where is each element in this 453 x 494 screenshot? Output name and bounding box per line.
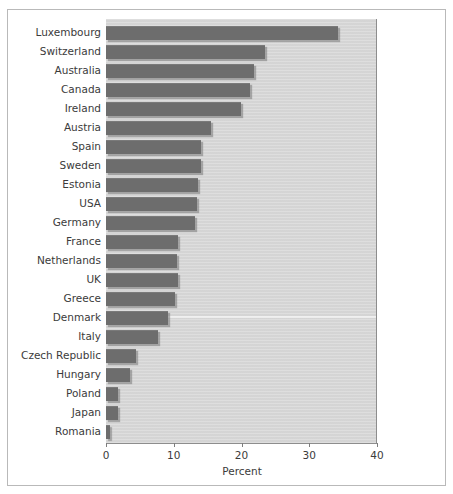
bar-category-label: Switzerland bbox=[40, 42, 101, 61]
bar bbox=[106, 292, 175, 306]
x-axis-tick-label: 20 bbox=[235, 449, 248, 461]
bar-category-label: France bbox=[66, 232, 101, 251]
bar-row: Australia bbox=[106, 61, 376, 80]
bar bbox=[106, 406, 118, 420]
bar-row: Spain bbox=[106, 137, 376, 156]
bar-category-label: Czech Republic bbox=[21, 346, 101, 365]
bar bbox=[106, 254, 177, 268]
bar bbox=[106, 140, 201, 154]
bar-category-label: Ireland bbox=[65, 99, 101, 118]
bar-category-label: Canada bbox=[61, 80, 101, 99]
bar bbox=[106, 102, 241, 116]
bar-row: UK bbox=[106, 270, 376, 289]
bar-row: USA bbox=[106, 194, 376, 213]
bar bbox=[106, 197, 197, 211]
chart-figure: LuxembourgSwitzerlandAustraliaCanadaIrel… bbox=[7, 9, 446, 486]
bar bbox=[106, 311, 168, 325]
bar-category-label: Sweden bbox=[60, 156, 102, 175]
bar-category-label: Greece bbox=[64, 289, 101, 308]
bar bbox=[106, 425, 110, 439]
bar-category-label: USA bbox=[79, 194, 101, 213]
bar-category-label: Poland bbox=[66, 384, 101, 403]
bar bbox=[106, 368, 130, 382]
bar bbox=[106, 273, 178, 287]
x-axis-tick bbox=[174, 443, 175, 447]
bar-row: Germany bbox=[106, 213, 376, 232]
bar-row: Sweden bbox=[106, 156, 376, 175]
x-axis-tick bbox=[309, 443, 310, 447]
bar-category-label: Luxembourg bbox=[36, 23, 101, 42]
bar bbox=[106, 330, 158, 344]
x-axis-title: Percent bbox=[106, 465, 378, 477]
bar bbox=[106, 178, 198, 192]
x-axis-tick bbox=[242, 443, 243, 447]
bar-category-label: Denmark bbox=[53, 308, 101, 327]
bar bbox=[106, 216, 195, 230]
bar-row: Italy bbox=[106, 327, 376, 346]
x-axis-tick bbox=[377, 443, 378, 447]
bar bbox=[106, 45, 265, 59]
bar-category-label: UK bbox=[86, 270, 101, 289]
bar-row: Poland bbox=[106, 384, 376, 403]
bar bbox=[106, 235, 178, 249]
bar-category-label: Germany bbox=[53, 213, 101, 232]
bar-row: Japan bbox=[106, 403, 376, 422]
plot-area: LuxembourgSwitzerlandAustraliaCanadaIrel… bbox=[106, 19, 377, 443]
bar bbox=[106, 64, 254, 78]
bar-category-label: Japan bbox=[72, 403, 101, 422]
bar-category-label: Romania bbox=[55, 422, 101, 441]
bar-row: Hungary bbox=[106, 365, 376, 384]
x-axis-tick-label: 10 bbox=[167, 449, 180, 461]
bar-row: Denmark bbox=[106, 308, 376, 327]
x-axis-tick-label: 40 bbox=[370, 449, 383, 461]
bar-category-label: Estonia bbox=[62, 175, 101, 194]
bar-row: France bbox=[106, 232, 376, 251]
bar-category-label: Spain bbox=[72, 137, 101, 156]
bar-row: Netherlands bbox=[106, 251, 376, 270]
bar-row: Austria bbox=[106, 118, 376, 137]
bar bbox=[106, 387, 118, 401]
bar-row: Greece bbox=[106, 289, 376, 308]
bar-row: Ireland bbox=[106, 99, 376, 118]
bar-category-label: Australia bbox=[55, 61, 101, 80]
bar-category-label: Austria bbox=[64, 118, 101, 137]
bar bbox=[106, 159, 201, 173]
x-axis-tick-label: 0 bbox=[103, 449, 110, 461]
bar-row: Czech Republic bbox=[106, 346, 376, 365]
bar bbox=[106, 349, 136, 363]
x-axis-tick bbox=[106, 443, 107, 447]
bar-row: Luxembourg bbox=[106, 23, 376, 42]
bar-row: Estonia bbox=[106, 175, 376, 194]
bar-row: Romania bbox=[106, 422, 376, 441]
bar bbox=[106, 26, 338, 40]
bar-category-label: Hungary bbox=[56, 365, 101, 384]
bar bbox=[106, 121, 211, 135]
bar-category-label: Italy bbox=[78, 327, 101, 346]
bar-category-label: Netherlands bbox=[37, 251, 101, 270]
x-axis-tick-label: 30 bbox=[303, 449, 316, 461]
bar-row: Canada bbox=[106, 80, 376, 99]
bar bbox=[106, 83, 250, 97]
bar-row: Switzerland bbox=[106, 42, 376, 61]
